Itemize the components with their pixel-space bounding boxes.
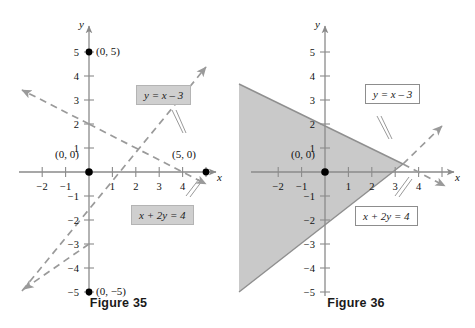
figure-36-plot: −2 −1 1 2 3 4 5 4 3 2 1 −1 −2 −3 −4 −5	[237, 0, 475, 296]
figure-36-panel: −2 −1 1 2 3 4 5 4 3 2 1 −1 −2 −3 −4 −5 x…	[237, 0, 475, 328]
figure-35-caption: Figure 35	[0, 296, 237, 310]
figure-36-caption: Figure 36	[237, 296, 475, 310]
point-0-0-label: (0, 0)	[55, 148, 79, 160]
callout-y-equals-x-minus-3: y = x – 3	[136, 85, 191, 105]
svg-text:−5: −5	[304, 287, 315, 296]
x-axis-label: x	[217, 171, 222, 183]
point-0-minus-5-dot	[86, 289, 93, 296]
svg-text:2: 2	[369, 181, 374, 192]
point-0-0-dot	[85, 168, 93, 176]
point-0-0-label: (0, 0)	[291, 148, 315, 160]
x-axis-label: x	[455, 171, 460, 183]
svg-text:−1: −1	[304, 191, 315, 202]
svg-text:4: 4	[416, 181, 422, 192]
svg-text:−2: −2	[304, 215, 315, 226]
svg-text:−1: −1	[68, 191, 79, 202]
svg-text:−4: −4	[304, 263, 316, 274]
svg-text:3: 3	[393, 181, 398, 192]
svg-text:4: 4	[310, 71, 316, 82]
line-y-equals-x-minus-3	[403, 126, 442, 164]
figures-container: −2 −1 1 2 3 4 5 4 3 2 1 −1 −2 −3 −4 −5 x…	[0, 0, 475, 328]
svg-text:2: 2	[310, 119, 315, 130]
y-axis-label: y	[79, 18, 84, 30]
svg-text:−3: −3	[304, 239, 315, 250]
svg-text:3: 3	[74, 95, 79, 106]
line-y-equals-x-minus-3-arrow-sw	[24, 244, 89, 289]
svg-text:−2: −2	[273, 181, 284, 192]
svg-text:5: 5	[74, 47, 79, 58]
point-0-5-dot	[86, 49, 93, 56]
svg-text:−5: −5	[68, 287, 79, 296]
svg-text:2: 2	[74, 119, 79, 130]
svg-text:−4: −4	[68, 263, 80, 274]
svg-text:1: 1	[346, 181, 351, 192]
callout-x-plus-2y-equals-4: x + 2y = 4	[131, 205, 194, 225]
shaded-solution-region	[239, 84, 403, 292]
figure-35-panel: −2 −1 1 2 3 4 5 4 3 2 1 −1 −2 −3 −4 −5 x…	[0, 0, 237, 328]
svg-text:−3: −3	[68, 239, 79, 250]
svg-text:4: 4	[74, 71, 80, 82]
svg-text:−2: −2	[68, 215, 79, 226]
point-5-0-dot	[203, 169, 210, 176]
svg-text:1: 1	[110, 181, 115, 192]
svg-text:2: 2	[133, 181, 138, 192]
point-5-0-label: (5, 0)	[172, 148, 196, 160]
point-0-5-label: (0, 5)	[96, 45, 120, 57]
point-0-0-dot	[321, 168, 329, 176]
callout-x-plus-2y-equals-4: x + 2y = 4	[355, 206, 418, 226]
axes-group-35	[19, 26, 216, 296]
callout-y-equals-x-minus-3: y = x – 3	[365, 84, 420, 104]
y-axis-label: y	[315, 18, 320, 30]
svg-text:5: 5	[310, 47, 315, 58]
svg-text:3: 3	[310, 95, 315, 106]
svg-text:−2: −2	[37, 181, 48, 192]
svg-text:3: 3	[157, 181, 162, 192]
svg-text:4: 4	[180, 181, 186, 192]
